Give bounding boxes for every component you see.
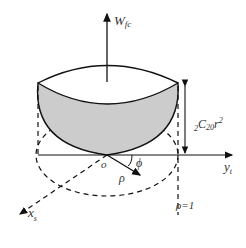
force-label: Wfc (114, 13, 131, 29)
wavefront-bowl (38, 83, 179, 155)
phi-angle-arc (128, 155, 132, 166)
defocus-wavefront-diagram: Wfc 2C20r2 yt xs o ρ ϕ ρ=1 (0, 0, 246, 248)
x-axis-label: xs (27, 205, 37, 223)
unit-circle-label: ρ=1 (175, 199, 194, 211)
height-label: 2C20r2 (194, 116, 223, 133)
rho-label: ρ (118, 171, 125, 185)
origin-label: o (101, 158, 107, 170)
phi-label: ϕ (136, 156, 142, 170)
rim-upper-arc (38, 66, 178, 84)
y-axis-label: yt (222, 159, 233, 176)
